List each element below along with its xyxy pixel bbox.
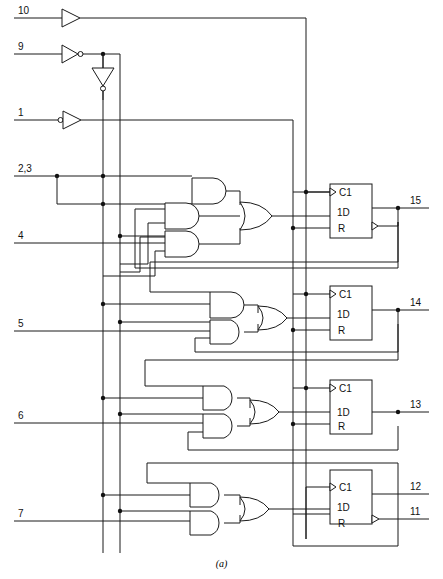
input-pin-label-1: 1 <box>18 107 24 118</box>
or-gate-4 <box>240 497 330 521</box>
and-gate-2b <box>195 320 258 352</box>
and-gate-4b <box>190 511 240 535</box>
input-pin-label-7: 7 <box>18 508 24 519</box>
input-pin-label-5: 5 <box>18 318 24 329</box>
and-gate-3b <box>188 414 250 450</box>
output-pin-label-11: 11 <box>410 506 421 517</box>
inverter-enable-not <box>92 54 114 100</box>
ff3-reset-label: R <box>338 421 345 432</box>
ff3-data-label: 1D <box>337 407 350 418</box>
input-pin-label-6: 6 <box>18 410 24 421</box>
ff4-reset-label: R <box>338 518 345 529</box>
and-gate-1a <box>192 178 240 205</box>
output-pin-label-13: 13 <box>410 399 422 410</box>
flipflop-4 <box>293 463 429 546</box>
input-pin-label-4: 4 <box>18 230 24 241</box>
input-10 <box>14 9 306 27</box>
flipflop-2 <box>291 286 429 360</box>
and-gate-4a <box>190 483 240 507</box>
input-pin-label-10: 10 <box>18 5 30 16</box>
or-gate-1 <box>240 202 330 230</box>
ff1-clock-label: C1 <box>339 187 352 198</box>
and-gate-1c <box>140 228 240 276</box>
figure-canvas: 10 9 1 2,3 4 <box>0 0 443 579</box>
and-gate-2a <box>210 292 258 318</box>
logic-diagram-svg: 10 9 1 2,3 4 <box>0 0 443 579</box>
ff2-data-label: 1D <box>337 309 350 320</box>
ff2-reset-label: R <box>338 325 345 336</box>
ff3-clock-label: C1 <box>339 383 352 394</box>
or-gate-2 <box>258 306 330 330</box>
output-pin-label-14: 14 <box>410 297 422 308</box>
ff1-data-label: 1D <box>337 207 350 218</box>
input-1 <box>14 111 293 129</box>
figure-caption: (a) <box>216 558 228 569</box>
output-pin-label-12: 12 <box>410 481 422 492</box>
ff4-data-label: 1D <box>337 502 350 513</box>
and-gate-3a <box>203 386 250 410</box>
ff1-reset-label: R <box>338 223 345 234</box>
flipflop-3 <box>291 380 429 434</box>
input-pin-label-9: 9 <box>18 41 24 52</box>
input-pin-label-2-3: 2,3 <box>18 163 32 174</box>
ff2-clock-label: C1 <box>339 289 352 300</box>
ff4-clock-label: C1 <box>339 482 352 493</box>
output-pin-label-15: 15 <box>410 195 422 206</box>
or-gate-3 <box>250 400 330 424</box>
